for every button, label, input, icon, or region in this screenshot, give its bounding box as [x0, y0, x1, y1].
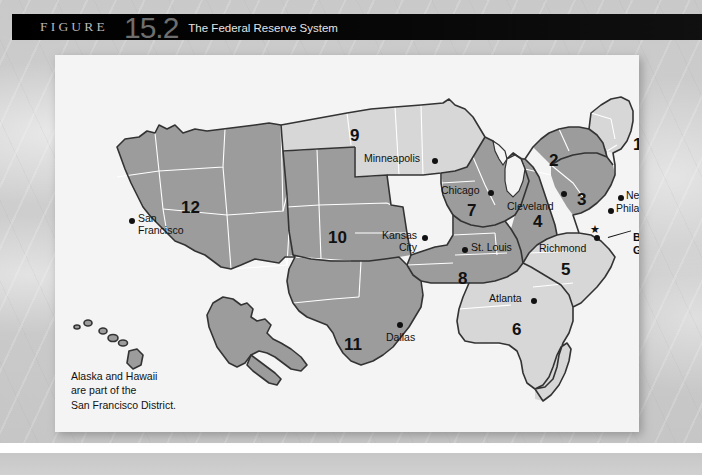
- city-label-san-francisco: San Francisco: [138, 213, 190, 237]
- district-number-6: 6: [512, 320, 521, 340]
- board-of-governors-star-icon: ★: [590, 224, 600, 235]
- city-label-philadelphia: Philadelphia: [616, 203, 639, 215]
- district-number-5: 5: [561, 260, 570, 280]
- city-dot-dallas: [397, 322, 403, 328]
- city-label-atlanta: Atlanta: [489, 293, 522, 305]
- figure-number: 15.2: [124, 13, 178, 43]
- city-label-richmond: Richmond: [539, 243, 586, 255]
- figure-header-bar: FIGURE 15.2 The Federal Reserve System: [12, 14, 702, 40]
- map-card: .lt{fill:#d7d7d7;} .md{fill:#9c9c9c;} .o…: [55, 55, 639, 432]
- city-label-chicago: Chicago: [441, 185, 480, 197]
- city-label-kansas-city: Kansas City: [361, 230, 417, 254]
- city-dot-kansas-city: [422, 235, 428, 241]
- district-number-8: 8: [458, 269, 467, 289]
- district-number-10: 10: [328, 228, 347, 248]
- city-dot-chicago: [488, 190, 494, 196]
- district-number-9: 9: [350, 126, 359, 146]
- district-number-7: 7: [467, 201, 476, 221]
- district-number-11: 11: [344, 335, 362, 355]
- city-dot-minneapolis: [432, 158, 438, 164]
- city-label-dallas: Dallas: [386, 332, 415, 344]
- board-of-governors-label: Board of Governors: [633, 231, 639, 257]
- city-dot-san-francisco: [129, 218, 135, 224]
- city-label-new-york: New York: [626, 190, 639, 202]
- city-label-minneapolis: Minneapolis: [364, 153, 420, 165]
- city-label-st-louis: St. Louis: [471, 242, 512, 254]
- alaska-hawaii-note: Alaska and Hawaii are part of the San Fr…: [71, 369, 176, 412]
- district-number-2: 2: [549, 151, 558, 171]
- bottom-white-gap: [0, 443, 702, 453]
- district-number-3: 3: [577, 190, 586, 210]
- city-dot-cleveland: [561, 191, 567, 197]
- figure-page: FIGURE 15.2 The Federal Reserve System .…: [0, 0, 702, 475]
- city-label-cleveland: Cleveland: [507, 201, 554, 213]
- city-dot-st-louis: [462, 247, 468, 253]
- city-dot-new-york: [618, 195, 624, 201]
- city-dot-atlanta: [531, 298, 537, 304]
- city-dot-philadelphia: [608, 208, 614, 214]
- district-number-4: 4: [533, 212, 542, 232]
- city-dot-richmond: [594, 235, 600, 241]
- bottom-gray-band: [0, 453, 702, 475]
- district-number-1: 1: [633, 135, 639, 155]
- figure-word: FIGURE: [40, 19, 108, 35]
- figure-title: The Federal Reserve System: [188, 22, 338, 34]
